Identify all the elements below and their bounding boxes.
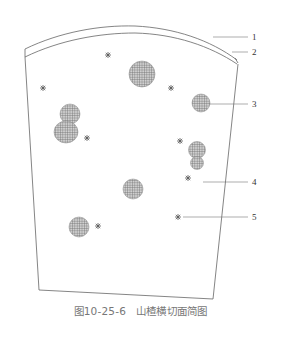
cross-section-diagram (0, 0, 281, 338)
leader-lines (183, 37, 248, 217)
callout-1-label: 1 (252, 32, 257, 42)
callout-3-label: 3 (252, 99, 257, 109)
section-body-outline (25, 57, 238, 299)
callout-2-label: 2 (252, 47, 257, 57)
caption-title: 山楂横切面简图 (136, 303, 207, 318)
callout-4-label: 4 (252, 177, 257, 187)
figure-caption: 图10-25-6山楂横切面简图 (0, 303, 281, 318)
caption-number: 图10-25-6 (74, 303, 127, 318)
outer-layer-outline (25, 26, 237, 60)
stone-cell-groups (54, 61, 210, 237)
callout-5-label: 5 (252, 212, 257, 222)
inner-layer-outline (25, 33, 237, 64)
